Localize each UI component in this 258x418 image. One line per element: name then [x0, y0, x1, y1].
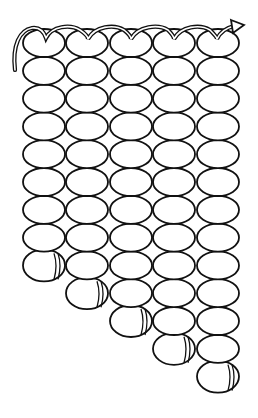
- bead: [153, 168, 195, 196]
- bead: [23, 85, 65, 113]
- bead: [153, 196, 195, 224]
- bead-column-1: [23, 29, 65, 281]
- bead: [153, 140, 195, 168]
- bead: [110, 224, 152, 252]
- bead: [197, 251, 239, 279]
- bead: [197, 307, 239, 335]
- bead: [153, 112, 195, 140]
- bead: [23, 57, 65, 85]
- bead-grid: [23, 29, 239, 393]
- bead: [197, 224, 239, 252]
- bead: [110, 112, 152, 140]
- bead: [110, 140, 152, 168]
- bead: [23, 196, 65, 224]
- bead-column-5: [197, 29, 239, 393]
- bead: [110, 57, 152, 85]
- bead: [110, 85, 152, 113]
- bead: [153, 224, 195, 252]
- bead: [23, 168, 65, 196]
- bead: [153, 85, 195, 113]
- bead-column-2: [66, 29, 108, 309]
- bead: [153, 307, 195, 335]
- bead: [197, 112, 239, 140]
- bead: [110, 196, 152, 224]
- bead: [153, 57, 195, 85]
- bead: [197, 168, 239, 196]
- bead: [66, 85, 108, 113]
- bead: [197, 140, 239, 168]
- bead: [66, 224, 108, 252]
- bead: [66, 140, 108, 168]
- bead: [66, 112, 108, 140]
- bead: [197, 85, 239, 113]
- bead: [110, 168, 152, 196]
- bead: [197, 196, 239, 224]
- bead: [66, 196, 108, 224]
- bead-weaving-illustration: [0, 0, 258, 418]
- bead: [110, 251, 152, 279]
- bead: [197, 279, 239, 307]
- bead: [23, 224, 65, 252]
- bead: [66, 168, 108, 196]
- bead: [197, 335, 239, 363]
- bead: [23, 140, 65, 168]
- bead: [23, 112, 65, 140]
- bead: [153, 251, 195, 279]
- arrow-head-icon: [231, 20, 244, 33]
- bead: [66, 251, 108, 279]
- bead: [110, 279, 152, 307]
- bead: [153, 29, 195, 57]
- bead: [197, 57, 239, 85]
- bead: [153, 279, 195, 307]
- bead: [110, 29, 152, 57]
- bead: [66, 57, 108, 85]
- bead-column-3: [110, 29, 152, 337]
